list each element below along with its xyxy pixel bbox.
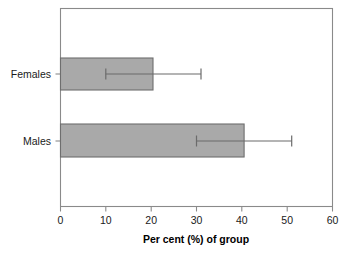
category-label-females: Females — [11, 68, 51, 80]
x-axis-tick-labels: 0 10 20 30 40 50 60 — [58, 214, 339, 226]
bar-chart-figure: 0 10 20 30 40 50 60 Per cent (%) of grou… — [0, 0, 349, 254]
category-label-males: Males — [23, 135, 51, 147]
x-tick-label-0: 0 — [58, 214, 64, 226]
x-axis-ticks — [61, 207, 333, 212]
x-tick-label-60: 60 — [327, 214, 339, 226]
chart-canvas: 0 10 20 30 40 50 60 Per cent (%) of grou… — [0, 0, 349, 254]
plot-frame — [61, 9, 333, 207]
y-axis-ticks — [56, 74, 61, 141]
x-tick-label-10: 10 — [100, 214, 112, 226]
x-tick-label-50: 50 — [281, 214, 293, 226]
x-tick-label-40: 40 — [236, 214, 248, 226]
x-tick-label-20: 20 — [145, 214, 157, 226]
x-tick-label-30: 30 — [191, 214, 203, 226]
x-axis-title: Per cent (%) of group — [143, 233, 249, 245]
